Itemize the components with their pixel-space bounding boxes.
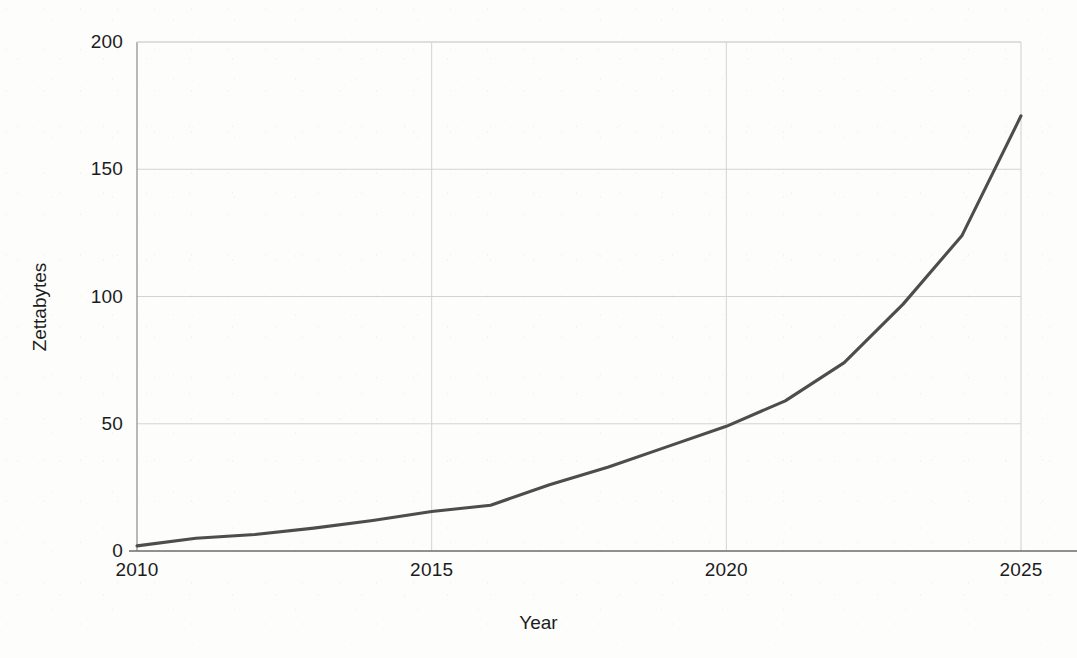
- x-tick-label: 2020: [705, 559, 748, 581]
- y-axis-title: Zettabytes: [29, 207, 51, 407]
- y-tick-label: 50: [41, 413, 123, 435]
- x-tick-label: 2025: [999, 559, 1042, 581]
- x-tick-label: 2010: [115, 559, 158, 581]
- y-tick-label: 150: [41, 158, 123, 180]
- y-tick-label: 200: [41, 31, 123, 53]
- data-series-line: [137, 116, 1021, 546]
- line-chart-plot: [0, 0, 1077, 658]
- y-tick-label: 0: [41, 540, 123, 562]
- x-axis-title: Year: [0, 612, 1077, 634]
- x-tick-label: 2015: [410, 559, 453, 581]
- y-tick-label: 100: [41, 286, 123, 308]
- chart-figure: 050100150200 2010201520202025 Year Zetta…: [0, 0, 1077, 658]
